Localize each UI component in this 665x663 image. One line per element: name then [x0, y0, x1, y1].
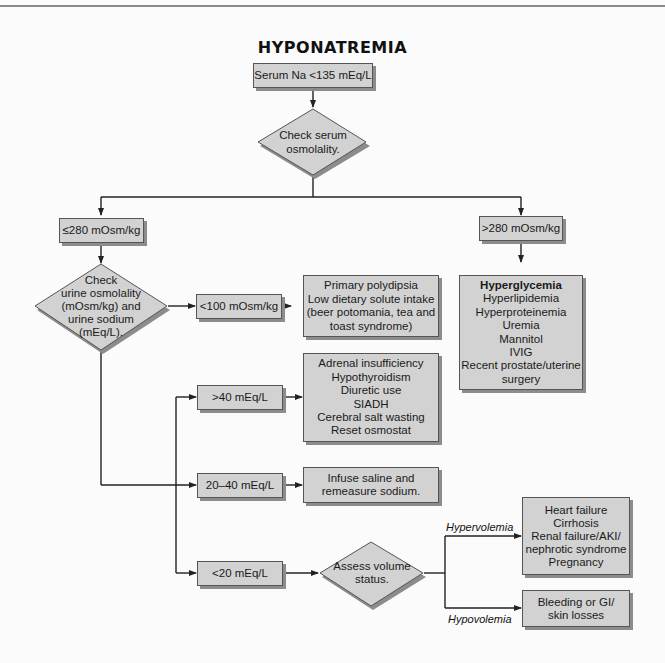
diamond-line: Check — [85, 274, 118, 287]
cause-item: Diuretic use — [341, 384, 402, 397]
high-serum-osm-box: >280 mOsm/kg — [479, 216, 563, 241]
action-item: Infuse saline and — [328, 472, 415, 486]
low-urine-na-box: <20 mEq/L — [197, 561, 283, 586]
assess-volume-text: Assess volume status. — [330, 557, 414, 589]
action-item: remeasure sodium. — [322, 485, 420, 499]
cause-item: surgery — [502, 373, 540, 386]
mid-urine-na-box: 20–40 mEq/L — [197, 473, 283, 498]
cause-item: Renal failure/AKI/ — [531, 530, 621, 543]
low-urine-osm-box: <100 mOsm/kg — [196, 294, 282, 319]
serum-na-box: Serum Na <135 mEq/L — [253, 63, 373, 88]
diamond-line: urine osmolality — [61, 287, 141, 300]
hypovolemia-label: Hypovolemia — [448, 613, 512, 625]
cause-item: Hyperproteinemia — [476, 306, 567, 319]
cause-item: Hyperlipidemia — [483, 292, 559, 305]
hypovolemia-causes-box: Bleeding or GI/ skin losses — [522, 590, 630, 627]
high-serum-osm-causes-box: Hyperglycemia Hyperlipidemia Hyperprotei… — [459, 275, 583, 390]
cause-item: skin losses — [548, 609, 604, 622]
mid-urine-na-action-box: Infuse saline and remeasure sodium. — [303, 467, 439, 503]
low-urine-osm-label: <100 mOsm/kg — [200, 299, 278, 314]
hypervolemia-causes-box: Heart failure Cirrhosis Renal failure/AK… — [522, 497, 630, 575]
check-serum-osmolality-text: Check serum osmolality. — [262, 126, 364, 158]
cause-item: (beer potomania, tea and — [307, 306, 436, 320]
diamond-line: urine sodium — [68, 313, 134, 326]
cause-item: Pregnancy — [549, 556, 604, 569]
cause-item: Primary polydipsia — [324, 279, 418, 293]
cause-item: IVIG — [509, 346, 532, 359]
cause-item: Adrenal insufficiency — [318, 357, 423, 370]
high-urine-na-causes-box: Adrenal insufficiency Hypothyroidism Diu… — [303, 353, 439, 442]
diamond-line: Assess volume — [333, 560, 410, 573]
cause-item: toast syndrome) — [330, 320, 412, 334]
high-urine-na-box: >40 mEq/L — [197, 385, 283, 410]
check-urine-text: Check urine osmolality (mOsm/kg) and uri… — [48, 270, 154, 342]
cause-item: Low dietary solute intake — [308, 293, 435, 307]
cause-item: Uremia — [502, 319, 539, 332]
cause-item: Heart failure — [545, 504, 608, 517]
diamond-line: (mOsm/kg) and — [61, 300, 140, 313]
diamond-line: osmolality. — [286, 142, 339, 157]
low-urine-na-label: <20 mEq/L — [212, 566, 268, 581]
cause-item: Bleeding or GI/ — [538, 596, 615, 609]
cause-item: nephrotic syndrome — [526, 543, 627, 556]
cause-item: SIADH — [353, 398, 388, 411]
serum-na-label: Serum Na <135 mEq/L — [254, 68, 371, 83]
cause-item: Mannitol — [499, 333, 542, 346]
cause-item: Hypothyroidism — [331, 371, 410, 384]
cause-item: Hyperglycemia — [480, 279, 562, 292]
high-serum-osm-label: >280 mOsm/kg — [482, 221, 560, 236]
diamond-line: (mEq/L). — [79, 326, 123, 339]
mid-urine-na-label: 20–40 mEq/L — [206, 478, 274, 493]
hypervolemia-label: Hypervolemia — [446, 521, 513, 533]
cause-item: Reset osmostat — [331, 424, 411, 437]
low-serum-osm-label: ≤280 mOsm/kg — [63, 223, 141, 238]
cause-item: Recent prostate/uterine — [461, 359, 581, 372]
diamond-line: status. — [355, 573, 389, 586]
low-urine-osm-causes-box: Primary polydipsia Low dietary solute in… — [303, 275, 439, 337]
diamond-line: Check serum — [279, 128, 347, 143]
low-serum-osm-box: ≤280 mOsm/kg — [59, 218, 144, 243]
high-urine-na-label: >40 mEq/L — [212, 390, 268, 405]
cause-item: Cerebral salt wasting — [317, 411, 424, 424]
cause-item: Cirrhosis — [553, 517, 598, 530]
